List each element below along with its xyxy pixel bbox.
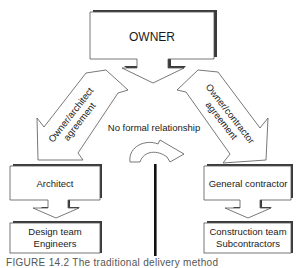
owner-label: OWNER — [129, 30, 175, 44]
architect-node: Architect — [10, 164, 102, 218]
construction-team-label-1: Construction team — [209, 226, 286, 237]
architect-label: Architect — [37, 178, 74, 189]
construction-team-node: Construction team Subcontractors — [204, 221, 293, 253]
no-relationship-label: No formal relationship — [108, 122, 200, 133]
owner-architect-arrow: Owner/architect agreement — [37, 70, 128, 160]
construction-team-label-2: Subcontractors — [216, 238, 280, 249]
curved-arrow-icon — [130, 140, 184, 162]
design-team-label-2: Engineers — [34, 238, 77, 249]
figure-caption: FIGURE 14.2 The traditional delivery met… — [6, 257, 218, 268]
owner-contractor-arrow: Owner/contractor agreement — [177, 70, 268, 163]
general-contractor-node: General contractor — [204, 164, 293, 218]
design-team-node: Design team Engineers — [10, 221, 102, 253]
no-relationship-indicator: No formal relationship — [108, 122, 200, 256]
separator-line — [154, 164, 157, 256]
general-contractor-label: General contractor — [209, 178, 288, 189]
design-team-label-1: Design team — [28, 226, 81, 237]
